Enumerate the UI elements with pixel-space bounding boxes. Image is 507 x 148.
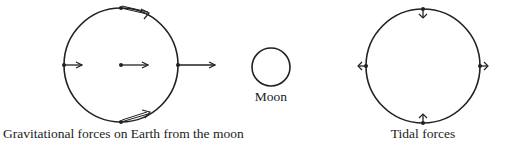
earth-circle-right: [366, 9, 480, 123]
gravitational-forces-caption: Gravitational forces on Earth from the m…: [3, 126, 244, 141]
moon-circle: [252, 48, 290, 86]
left-force-arrow-icon: [62, 63, 82, 67]
tidal-forces-caption: Tidal forces: [391, 126, 455, 141]
right-force-arrow-icon: [176, 63, 215, 67]
center-force-arrow-icon: [119, 63, 148, 67]
earth-gravitational-forces: Gravitational forces on Earth from the m…: [3, 6, 244, 141]
earth-tidal-forces: Tidal forces: [358, 7, 488, 141]
tidal-forces-diagram: Gravitational forces on Earth from the m…: [0, 0, 507, 148]
moon: Moon: [252, 48, 290, 104]
moon-label: Moon: [255, 89, 288, 104]
